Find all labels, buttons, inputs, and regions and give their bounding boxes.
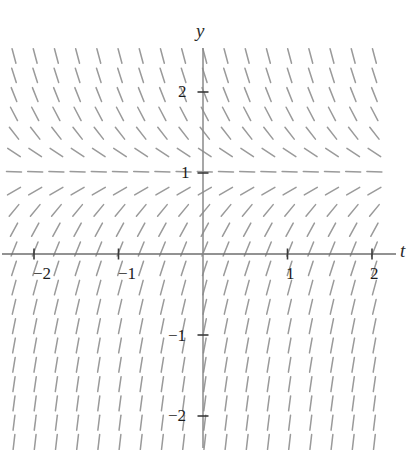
slope-segment (97, 300, 100, 315)
slope-segment (283, 187, 296, 195)
slope-segment (266, 68, 271, 82)
slope-segment (331, 319, 334, 334)
slope-segment (74, 107, 81, 120)
slope-segment (140, 396, 142, 411)
slope-segment (225, 377, 227, 392)
slope-segment (76, 280, 80, 294)
slope-segment (246, 377, 248, 392)
slope-segment (204, 357, 206, 372)
slope-segment (286, 223, 293, 236)
slope-segment (327, 127, 336, 139)
slope-segment (328, 223, 335, 236)
slope-segment (199, 148, 212, 156)
slope-segment (288, 319, 291, 334)
slope-segment (224, 300, 227, 315)
slope-segment (53, 223, 60, 236)
slope-segment (224, 49, 228, 64)
slope-segment (96, 261, 101, 275)
slope-segment (96, 88, 102, 102)
slope-segment (93, 148, 106, 156)
slope-segment (75, 68, 80, 82)
slope-segment (246, 357, 248, 372)
slope-segment (160, 68, 165, 82)
slope-segment (12, 280, 16, 294)
slope-segment (29, 148, 42, 156)
slope-segment (76, 49, 80, 64)
slope-segment (119, 396, 121, 411)
slope-segment (288, 357, 290, 372)
y-axis-tick-label: 2 (178, 82, 187, 102)
slope-segment (350, 223, 357, 236)
slope-segment (285, 205, 295, 217)
slope-segment (371, 223, 378, 236)
slope-segment (34, 377, 36, 392)
slope-segment (12, 49, 16, 64)
slope-segment (204, 396, 206, 411)
slope-segment (119, 435, 121, 450)
slope-segment (309, 319, 312, 334)
slope-segment (351, 261, 356, 275)
slope-segment (310, 435, 312, 450)
slope-segment (33, 68, 38, 82)
slope-segment (95, 107, 102, 120)
slope-segment (289, 396, 291, 411)
slope-segment (12, 261, 17, 275)
slope-segment (70, 172, 85, 173)
slope-segment (13, 338, 16, 353)
slope-segment (76, 338, 79, 353)
slope-segment (10, 223, 17, 236)
slope-segment (331, 357, 333, 372)
slope-segment (54, 261, 59, 275)
slope-segment (351, 68, 356, 82)
slope-segment (289, 415, 291, 430)
axes-group (2, 48, 396, 448)
slope-segment (326, 148, 339, 156)
slope-segment (179, 127, 188, 139)
slope-segment (159, 107, 166, 120)
slope-segment (161, 396, 163, 411)
slope-segment (135, 148, 148, 156)
slope-segment (349, 127, 358, 139)
slope-segment (242, 205, 252, 217)
slope-segment (367, 172, 382, 173)
slope-segment (137, 127, 146, 139)
slope-segment (95, 223, 102, 236)
slope-segment (371, 107, 378, 120)
slope-segment (309, 68, 314, 82)
slope-segment (220, 148, 233, 156)
slope-segment (331, 396, 333, 411)
slope-segment (160, 280, 164, 294)
slope-segment (197, 172, 212, 173)
slope-segment (267, 396, 269, 411)
slope-segment (306, 127, 315, 139)
slope-segment (182, 280, 186, 294)
slope-segment (182, 49, 186, 64)
slope-segment (221, 205, 231, 217)
slope-segment (265, 107, 272, 120)
slope-segment (373, 377, 375, 392)
slope-segment (309, 338, 312, 353)
slope-segment (347, 187, 360, 195)
slope-segment (118, 300, 121, 315)
slope-segment (182, 357, 184, 372)
slope-segment (155, 172, 170, 173)
slope-segment (245, 280, 249, 294)
slope-segment (204, 435, 206, 450)
slope-segment (223, 88, 229, 102)
t-axis-tick-label: −2 (33, 264, 51, 284)
slope-segment (330, 280, 334, 294)
slope-segment (34, 357, 36, 372)
slope-segment (265, 223, 272, 236)
slope-segment (177, 187, 190, 195)
slope-segment (162, 435, 164, 450)
slope-segment (225, 415, 227, 430)
slope-segment (156, 148, 169, 156)
slope-segment (161, 377, 163, 392)
slope-segment (285, 127, 294, 139)
slope-segment (240, 172, 255, 173)
slope-segment (267, 300, 270, 315)
slope-field-figure: y t −2−11221−1−2 (0, 0, 415, 450)
slope-segment (116, 223, 123, 236)
slope-segment (225, 357, 227, 372)
slope-segment (351, 280, 355, 294)
